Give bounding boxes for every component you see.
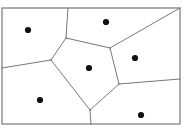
seed-point-top-right bbox=[103, 19, 109, 25]
voronoi-canvas bbox=[0, 0, 187, 131]
voronoi-diagram-figure bbox=[0, 0, 187, 131]
seed-point-bottom-right bbox=[138, 112, 144, 118]
seed-point-center bbox=[86, 65, 92, 71]
seed-point-right bbox=[132, 55, 138, 61]
seed-point-top-left bbox=[25, 27, 31, 33]
seed-point-bottom-left bbox=[37, 97, 43, 103]
